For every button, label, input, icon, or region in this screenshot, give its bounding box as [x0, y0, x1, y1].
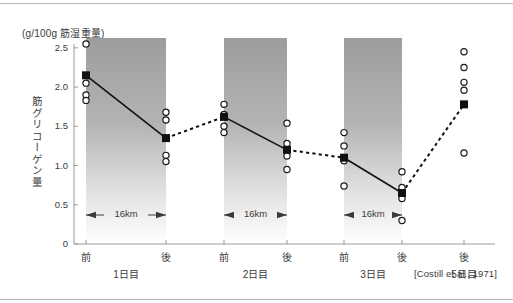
y-axis-tick-label: 2.0 [42, 81, 68, 92]
source-citation: [Costill et al., 1971] [414, 268, 497, 279]
y-axis-tick-label: 0.5 [42, 199, 68, 210]
data-point-circle [399, 217, 405, 223]
x-axis-tick-label: 後 [382, 249, 422, 264]
data-point-circle [341, 129, 347, 135]
x-axis-tick-label: 後 [146, 249, 186, 264]
data-point-circle [284, 140, 290, 146]
x-axis-group-label: 3日目 [343, 266, 403, 281]
run-distance-label: 16km [231, 208, 281, 219]
data-point-circle [221, 101, 227, 107]
y-axis-tick-label: 1.0 [42, 160, 68, 171]
figure-container: (g/100g 筋湿重量) 筋グリコーゲン量 00.51.01.52.02.5 … [0, 0, 513, 303]
data-point-circle [163, 109, 169, 115]
data-point-circle [341, 143, 347, 149]
recovery-segment [166, 117, 224, 138]
x-axis-tick-label: 前 [204, 249, 244, 264]
data-point-circle [163, 117, 169, 123]
data-point-circle [461, 150, 467, 156]
data-point-circle [83, 97, 89, 103]
data-point-circle [284, 120, 290, 126]
run-distance-label: 16km [101, 208, 151, 219]
x-axis-tick-label: 前 [324, 249, 364, 264]
mean-marker-square [162, 134, 170, 142]
x-axis-group-label: 1日目 [96, 266, 156, 281]
data-point-circle [163, 152, 169, 158]
x-axis-tick-label: 後 [267, 249, 307, 264]
data-point-circle [341, 183, 347, 189]
x-axis-tick-label: 前 [66, 249, 106, 264]
data-point-circle [83, 41, 89, 47]
data-point-circle [284, 166, 290, 172]
y-axis-tick-label: 0 [42, 238, 68, 249]
data-point-circle [461, 87, 467, 93]
y-axis-tick-label: 2.5 [42, 42, 68, 53]
data-point-circle [221, 129, 227, 135]
data-point-circle [461, 64, 467, 70]
data-point-circle [461, 79, 467, 85]
x-axis-tick-label: 後 [444, 249, 484, 264]
mean-marker-square [220, 113, 228, 121]
data-point-circle [284, 153, 290, 159]
data-point-circle [83, 80, 89, 86]
recovery-segment [402, 104, 464, 193]
y-axis-tick-label: 1.5 [42, 120, 68, 131]
mean-marker-square [82, 71, 90, 79]
mean-marker-square [340, 154, 348, 162]
run-distance-label: 16km [348, 208, 398, 219]
data-point-circle [221, 123, 227, 129]
recovery-segment [287, 150, 344, 158]
mean-marker-square [398, 189, 406, 197]
mean-marker-square [283, 146, 291, 154]
x-axis-group-label: 2日目 [226, 266, 286, 281]
data-point-circle [399, 169, 405, 175]
mean-marker-square [460, 100, 468, 108]
data-point-circle [163, 159, 169, 165]
data-point-circle [461, 49, 467, 55]
